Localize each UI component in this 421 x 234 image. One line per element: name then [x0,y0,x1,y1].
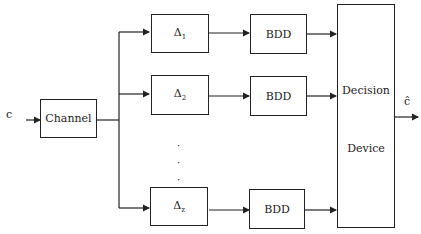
delta-block-1: Δ1 [151,14,209,53]
channel-block: Channel [40,99,97,138]
ellipsis-dot: · [177,158,180,168]
device-label: Device [347,142,385,155]
bdd-label-1: BDD [266,28,292,41]
delta-label-2: Δ2 [174,87,186,102]
bdd-block-2: BDD [250,76,307,116]
ellipsis-dot: · [177,175,180,185]
decision-device-block: Decision Device [337,4,395,228]
delta-label-1: Δ1 [174,26,186,41]
output-label: ĉ [404,95,410,108]
bdd-label-z: BDD [264,203,290,216]
ellipsis-dot: · [177,141,180,151]
bdd-block-1: BDD [250,14,307,54]
delta-block-2: Δ2 [151,75,209,115]
delta-label-z: Δz [173,199,185,214]
bdd-label-2: BDD [266,90,292,103]
input-label: c [6,108,12,121]
bdd-block-z: BDD [249,189,305,229]
channel-label: Channel [45,112,91,125]
delta-block-z: Δz [150,187,208,226]
decision-label: Decision [342,84,390,97]
